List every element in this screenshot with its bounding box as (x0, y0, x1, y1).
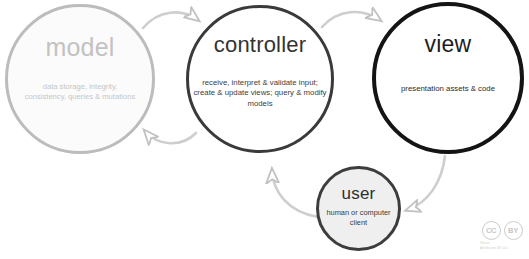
diagram-canvas: model data storage, integrity, consisten… (0, 0, 529, 259)
creative-commons-icon: CC (482, 221, 501, 240)
node-controller-description: receive, interpret & validate input; cre… (193, 78, 327, 109)
node-user-title: user (342, 185, 376, 202)
cc-badge-icons: CC BY (482, 221, 523, 240)
node-user-description: human or computer client (320, 208, 398, 228)
node-view[interactable]: view presentation assets & code (372, 2, 524, 154)
node-model[interactable]: model data storage, integrity, consisten… (5, 4, 155, 154)
node-view-description: presentation assets & code (393, 84, 503, 94)
node-model-title: model (45, 35, 114, 60)
cc-microtext-line-2: Attribution BY-4.0 (480, 246, 525, 251)
creative-commons-badge[interactable]: CC BY Share Attribution BY-4.0 (479, 221, 525, 255)
arrow-user-to-controller (272, 170, 318, 217)
arrow-view-to-user (407, 156, 445, 210)
node-controller[interactable]: controller receive, interpret & validate… (186, 5, 334, 153)
arrow-controller-to-model (145, 131, 196, 143)
arrow-model-to-controller (143, 12, 198, 28)
cc-badge-microtext: Share Attribution BY-4.0 (479, 241, 525, 251)
node-view-title: view (425, 33, 472, 56)
arrow-controller-to-view (322, 12, 380, 27)
attribution-icon: BY (504, 221, 523, 240)
node-controller-title: controller (214, 34, 306, 56)
node-user[interactable]: user human or computer client (316, 166, 401, 251)
node-model-description: data storage, integrity, consistency, qu… (24, 82, 136, 102)
